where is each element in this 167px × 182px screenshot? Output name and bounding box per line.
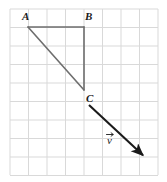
vertex-labels: ABCv [21,10,113,146]
triangle-abc [28,27,84,90]
vector-v-arrow [89,105,143,155]
vertex-label-a: A [21,10,29,22]
vector-v [89,105,143,155]
figure-canvas: ABCv [0,0,167,182]
vertex-label-c: C [86,92,94,104]
vertex-label-b: B [84,10,92,22]
edge-ca [28,27,84,90]
geometry-figure: ABCv [0,0,167,182]
